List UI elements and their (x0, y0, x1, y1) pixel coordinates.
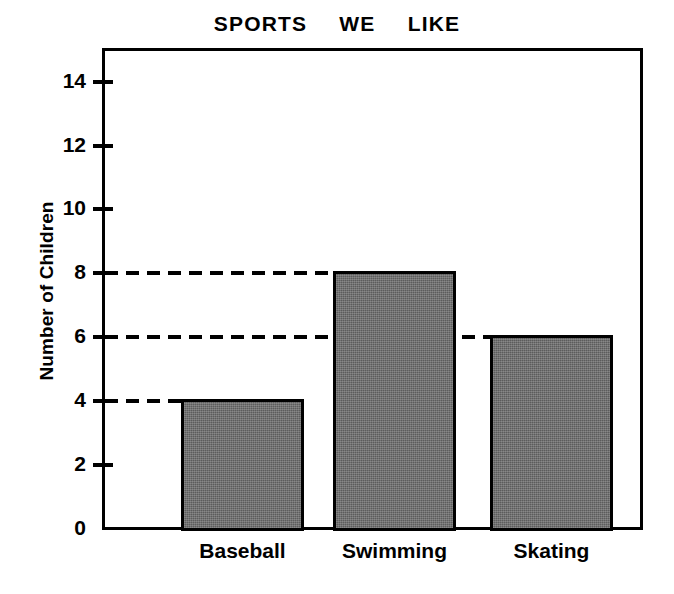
chart-title: SPORTS WE LIKE (0, 12, 674, 36)
y-tick-label-14: 14 (30, 70, 86, 91)
category-label-baseball: Baseball (181, 539, 304, 563)
bar-chart: SPORTS WE LIKE Number of Children 14 12 … (0, 0, 674, 594)
guide-line-8 (105, 271, 336, 275)
y-tick-12 (93, 144, 113, 148)
bar-swimming[interactable] (333, 271, 456, 531)
y-tick-label-10: 10 (30, 197, 86, 218)
y-tick-10 (93, 207, 113, 211)
y-tick-label-6: 6 (30, 325, 86, 346)
guide-line-4 (105, 399, 184, 403)
y-tick-14 (93, 80, 113, 84)
y-tick-label-4: 4 (30, 389, 86, 410)
y-tick-2 (93, 463, 113, 467)
y-tick-label-12: 12 (30, 134, 86, 155)
category-label-skating: Skating (490, 539, 613, 563)
y-tick-label-8: 8 (30, 261, 86, 282)
y-tick-label-0: 0 (30, 517, 86, 538)
category-label-swimming: Swimming (333, 539, 456, 563)
bar-baseball[interactable] (181, 399, 304, 531)
y-tick-label-2: 2 (30, 453, 86, 474)
bar-skating[interactable] (490, 335, 613, 531)
